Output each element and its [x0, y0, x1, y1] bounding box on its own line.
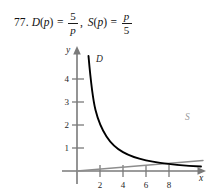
demand-curve-label: D: [95, 54, 103, 64]
y-tick-label: 4: [65, 74, 70, 84]
supply-fraction: p 5: [122, 11, 132, 36]
x-tick-label: 4: [121, 180, 126, 190]
demand-function-name: D: [32, 16, 40, 28]
y-tick-label: 3: [65, 97, 70, 107]
supply-numerator: p: [122, 11, 132, 23]
problem-statement: 77. D(p) = 5 p , S(p) = p 5: [14, 8, 210, 38]
coordinate-plane: y x 2 4 6 8 1 2 3 4 D S: [0, 36, 214, 196]
y-axis-arrow-icon: [73, 46, 81, 55]
supply-denominator: 5: [122, 24, 132, 36]
supply-function-expression: S(p): [88, 17, 107, 29]
demand-denominator: p: [68, 24, 78, 36]
expression-separator: ,: [80, 17, 83, 29]
demand-rparen: ): [50, 16, 54, 28]
x-axis-label: x: [198, 173, 204, 183]
supply-rparen: ): [103, 16, 107, 28]
x-tick-label: 8: [167, 180, 172, 190]
demand-function-expression: D(p): [32, 17, 54, 29]
y-tick-label: 2: [65, 120, 70, 130]
supply-equals-sign: =: [111, 17, 118, 29]
graph-figure: y x 2 4 6 8 1 2 3 4 D S: [0, 36, 214, 196]
y-tick-group: 1 2 3 4: [65, 74, 85, 153]
problem-number: 77.: [14, 17, 29, 29]
supply-curve-label: S: [185, 112, 190, 122]
y-axis-label: y: [65, 45, 71, 55]
demand-equals-sign: =: [57, 17, 64, 29]
demand-numerator: 5: [68, 11, 78, 23]
x-tick-label: 2: [98, 180, 103, 190]
y-tick-label: 1: [65, 143, 70, 153]
demand-fraction: 5 p: [68, 11, 78, 36]
x-tick-label: 6: [144, 180, 149, 190]
